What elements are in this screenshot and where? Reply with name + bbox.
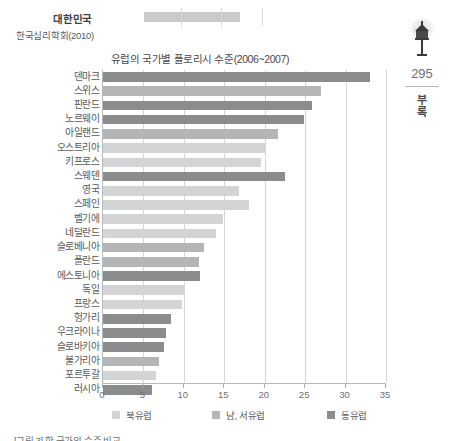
category-label: 영국 xyxy=(3,183,99,196)
bar-row: 벨기에 xyxy=(103,212,386,226)
bar xyxy=(103,328,166,338)
category-label: 오스트리아 xyxy=(3,141,99,154)
category-label: 핀란드 xyxy=(3,98,99,111)
legend-swatch xyxy=(112,411,120,419)
axis-tick-label: 10 xyxy=(168,389,198,400)
bar-row: 노르웨이 xyxy=(103,113,386,127)
gridline xyxy=(386,70,387,383)
x-axis: 05101520253035 xyxy=(102,384,386,402)
bar-row: 슬로베니아 xyxy=(103,241,386,255)
category-label: 아일랜드 xyxy=(3,126,99,139)
bar xyxy=(103,214,223,224)
category-label: 노르웨이 xyxy=(3,112,99,125)
bar xyxy=(103,342,164,352)
section-label: 부 록 xyxy=(392,94,452,118)
bar xyxy=(103,129,278,139)
bar-row: 포르투갈 xyxy=(103,369,386,383)
bar-row: 영국 xyxy=(103,184,386,198)
category-label: 에스토니아 xyxy=(3,269,99,282)
lamp-icon xyxy=(404,18,440,58)
category-label: 스웨덴 xyxy=(3,169,99,182)
bar xyxy=(103,300,182,310)
category-label: 독일 xyxy=(3,283,99,296)
axis-tick-label: 25 xyxy=(289,389,319,400)
bar-row: 폴란드 xyxy=(103,255,386,269)
bar xyxy=(103,200,249,210)
axis-tick-label: 20 xyxy=(249,389,279,400)
bar xyxy=(103,86,321,96)
bar xyxy=(103,115,304,125)
axis-tick xyxy=(264,384,265,388)
bar-row: 불가리아 xyxy=(103,354,386,368)
axis-tick xyxy=(102,384,103,388)
bar xyxy=(103,371,156,381)
bar xyxy=(103,314,171,324)
legend-label: 동유럽 xyxy=(341,408,367,422)
category-label: 폴란드 xyxy=(3,254,99,267)
category-label: 프랑스 xyxy=(3,297,99,310)
bar-row: 스위스 xyxy=(103,84,386,98)
bar-row: 핀란드 xyxy=(103,98,386,112)
bar xyxy=(103,229,216,239)
axis-tick-label: 30 xyxy=(330,389,360,400)
bar xyxy=(103,285,184,295)
bar-row: 아일랜드 xyxy=(103,127,386,141)
bar xyxy=(103,271,200,281)
page-number: 295 xyxy=(392,66,452,81)
bar-row: 우크라이나 xyxy=(103,326,386,340)
legend-swatch xyxy=(327,411,335,419)
category-label: 우크라이나 xyxy=(3,325,99,338)
next-figure-caption-bleed: [그림 3] 한 국가의 수준 비교 xyxy=(14,433,121,441)
previous-figure-bleed: 대한민국 한국심리학회(2010) xyxy=(0,0,400,46)
category-label: 슬로베니아 xyxy=(3,240,99,253)
bar-row: 독일 xyxy=(103,283,386,297)
axis-tick xyxy=(183,384,184,388)
legend-item: 동유럽 xyxy=(327,408,367,422)
korea-bar xyxy=(144,12,240,22)
bar-row: 키프로스 xyxy=(103,155,386,169)
section-char-2: 록 xyxy=(392,106,452,118)
source-citation: 한국심리학회(2010) xyxy=(16,28,94,42)
axis-tick xyxy=(223,384,224,388)
bar-row: 스페인 xyxy=(103,198,386,212)
bar-row: 네덜란드 xyxy=(103,226,386,240)
bar xyxy=(103,357,159,367)
korea-label: 대한민국 xyxy=(0,11,92,26)
axis-tick xyxy=(385,384,386,388)
bleed-tick xyxy=(262,8,263,26)
category-label: 포르투갈 xyxy=(3,368,99,381)
category-label: 덴마크 xyxy=(3,70,99,83)
bar-rows: 덴마크스위스핀란드노르웨이아일랜드오스트리아키프로스스웨덴영국스페인벨기에네덜란… xyxy=(103,70,386,383)
category-label: 스페인 xyxy=(3,197,99,210)
legend-item: 남, 서유럽 xyxy=(212,408,265,422)
category-label: 스위스 xyxy=(3,84,99,97)
bar-row: 오스트리아 xyxy=(103,141,386,155)
bar-row: 에스토니아 xyxy=(103,269,386,283)
bar xyxy=(103,143,265,153)
bar xyxy=(103,158,261,168)
legend-swatch xyxy=(212,411,220,419)
axis-tick xyxy=(345,384,346,388)
category-label: 러시아 xyxy=(3,382,99,395)
bar xyxy=(103,72,370,82)
category-label: 슬로바키아 xyxy=(3,340,99,353)
bar-chart-plot-area: 덴마크스위스핀란드노르웨이아일랜드오스트리아키프로스스웨덴영국스페인벨기에네덜란… xyxy=(102,70,386,384)
bar xyxy=(103,257,199,267)
axis-tick-label: 15 xyxy=(208,389,238,400)
category-label: 키프로스 xyxy=(3,155,99,168)
section-char-1: 부 xyxy=(392,94,452,106)
bleed-tick xyxy=(181,8,182,26)
bar xyxy=(103,186,239,196)
bar xyxy=(103,243,204,253)
page-divider xyxy=(405,86,439,87)
legend-label: 남, 서유럽 xyxy=(226,408,265,422)
bar-row: 스웨덴 xyxy=(103,170,386,184)
bar xyxy=(103,172,285,182)
bleed-tick xyxy=(221,8,222,26)
axis-tick-label: 5 xyxy=(127,389,157,400)
category-label: 네덜란드 xyxy=(3,226,99,239)
bar-row: 프랑스 xyxy=(103,298,386,312)
bar-row: 헝가리 xyxy=(103,312,386,326)
category-label: 헝가리 xyxy=(3,311,99,324)
legend-label: 북유럽 xyxy=(126,408,152,422)
